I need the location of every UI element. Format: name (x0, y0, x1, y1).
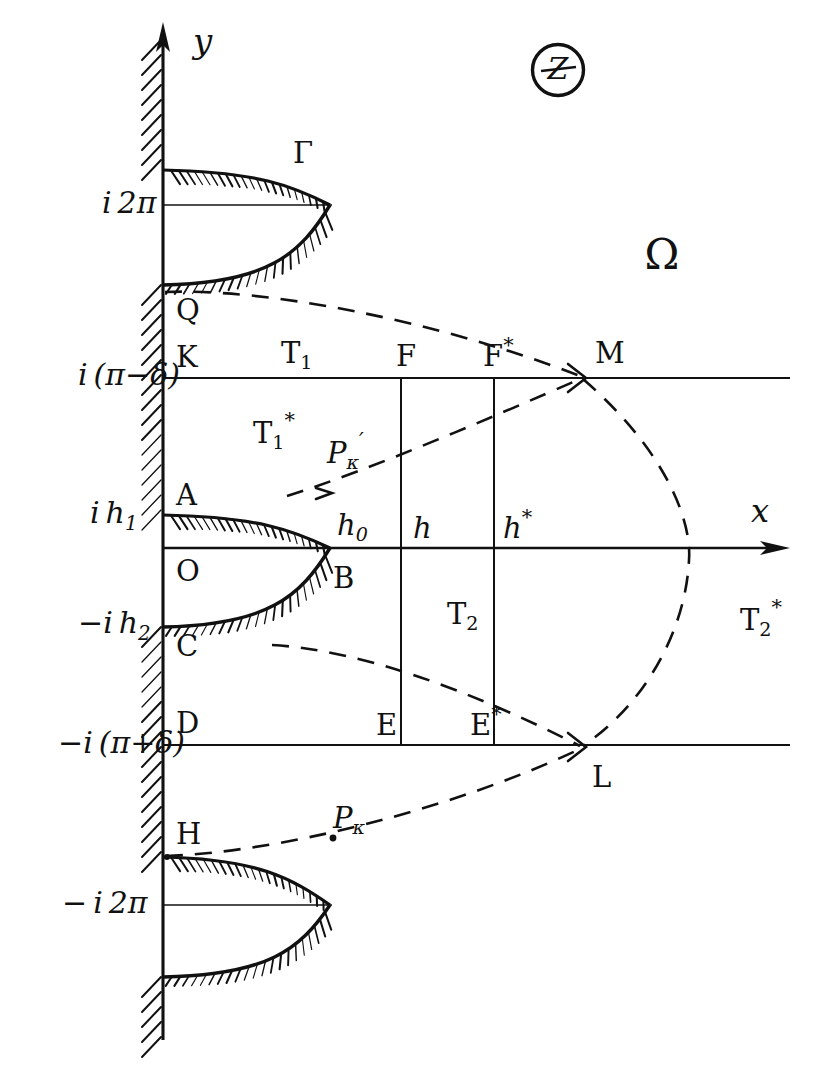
hatch-tick (179, 171, 188, 185)
label-ipi-delta: i (π−δ) (78, 357, 180, 392)
label-F: F (396, 339, 416, 373)
hatch-tick (187, 171, 196, 185)
x-axis-label: x (751, 492, 769, 530)
label-i2pi: i 2π (102, 185, 158, 220)
hatch-tick (171, 857, 180, 871)
hatch-tick (290, 595, 291, 611)
hatch-tick (304, 241, 307, 258)
label-M: M (595, 336, 625, 370)
label-T2: T2 (447, 597, 479, 635)
hatch-tick (186, 516, 195, 530)
label-Pk: Pκ (332, 801, 366, 839)
hatch-tick (142, 510, 161, 530)
label-Fstar: F* (483, 332, 514, 373)
hatch-tick (320, 220, 326, 237)
label-A: A (175, 478, 198, 512)
hatch-tick (309, 932, 312, 949)
plane-label-badge: Z (533, 45, 584, 96)
hatch-tick (310, 892, 311, 902)
label-hstar: h* (503, 504, 533, 545)
axes-group (156, 22, 790, 1040)
label-T2star: T2* (740, 594, 783, 641)
hatch-tick (283, 258, 284, 274)
region-label-omega: Ω (645, 230, 680, 279)
hatch-tick (325, 556, 332, 573)
label-T1: T1 (281, 336, 313, 374)
cusp-lower-lower-arc (163, 905, 330, 977)
label-E: E (376, 708, 397, 742)
hatch-tick (297, 590, 299, 607)
curve-C-to-L (272, 645, 580, 746)
hatch-tick (179, 515, 188, 529)
hatch-tick (325, 213, 332, 230)
hatch-tick (288, 949, 289, 965)
hatch-tick (282, 600, 283, 616)
curve-Q-to-M (165, 292, 580, 376)
arrowhead-L (568, 733, 586, 761)
crossing-arrowheads (316, 364, 586, 761)
hatch-tick (179, 858, 188, 872)
y-axis-label: y (191, 21, 213, 61)
label-T1star: T1* (253, 407, 296, 454)
hatch-tick (171, 170, 180, 184)
arrowhead-Pk-prime (316, 488, 332, 499)
hatch-tick (296, 944, 297, 961)
label-ih1: i h1 (90, 495, 138, 535)
hatch-tick (142, 495, 161, 515)
complex-plane-diagram: Z Ω y x i 2πi (π−δ)i h1−i h2−i (π+δ)− i … (0, 0, 838, 1071)
point-labels-group: ΓQKAOCDHBFF*MEE*Lh0hh*T1T1*T2T2*Pκ′Pκ (175, 136, 783, 851)
imaginary-axis-tick-labels: i 2πi (π−δ)i h1−i h2−i (π+δ)− i 2π (58, 185, 185, 920)
label-Q: Q (176, 293, 200, 327)
hatch-tick (142, 450, 161, 470)
hatch-tick (309, 577, 313, 594)
curve-H-to-L (166, 749, 580, 856)
point-Pk-dot (330, 835, 337, 842)
label-h: h (413, 511, 432, 545)
hatch-tick (290, 253, 291, 269)
hatch-tick (302, 938, 304, 955)
hatch-tick (142, 657, 161, 677)
label--ipi+delta: −i (π+δ) (58, 725, 185, 760)
hatch-tick (303, 583, 306, 600)
cusp-lower-upper-arc (163, 857, 330, 905)
label-Pk-prime: Pκ′ (326, 427, 364, 474)
label-h0: h0 (337, 508, 368, 546)
label--ih2: −i h2 (78, 605, 151, 645)
hatch-tick (325, 912, 331, 930)
construction-lines (163, 205, 790, 905)
label-K: K (176, 340, 199, 374)
label-Gamma: Γ (293, 136, 313, 170)
curve-M-to-L (583, 379, 689, 746)
label-O: O (176, 554, 200, 588)
label-H: H (176, 817, 201, 851)
figure-canvas: Z Ω y x i 2πi (π−δ)i h1−i h2−i (π+δ)− i … (0, 0, 838, 1071)
label-C: C (176, 629, 198, 663)
hatch-tick (142, 672, 161, 692)
hatch-tick (310, 234, 314, 251)
cusp-upper-hatching (166, 170, 332, 294)
hatch-tick (315, 570, 320, 587)
hatch-tick (297, 247, 299, 264)
hatch-tick (142, 480, 161, 500)
hatch-tick (142, 465, 161, 485)
hatch-tick (320, 919, 325, 936)
hatch-tick (315, 227, 320, 244)
label--i2pi: − i 2π (62, 885, 149, 920)
hatch-tick (320, 563, 326, 580)
cusp-lower-hatching (166, 857, 332, 986)
hatch-tick (314, 926, 318, 943)
label-Estar: E* (470, 701, 502, 742)
label-B: B (333, 561, 354, 595)
label-D: D (176, 706, 199, 740)
point-H-dot (164, 854, 170, 860)
label-L: L (592, 760, 611, 794)
